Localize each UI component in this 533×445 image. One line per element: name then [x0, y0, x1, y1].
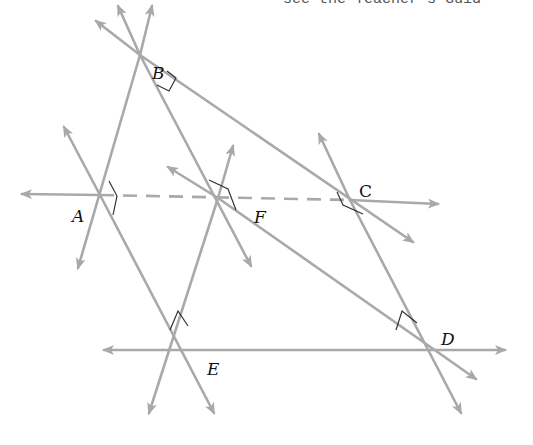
line-ba — [140, 6, 152, 55]
line-fe — [218, 146, 233, 198]
line-cd-down — [350, 200, 461, 413]
right-angle-mark-a — [109, 181, 117, 215]
line-ae — [64, 127, 100, 195]
point-label-f: F — [253, 207, 267, 227]
right-angle-mark-d — [396, 311, 417, 330]
point-label-e: E — [206, 359, 220, 379]
geometry-diagram: B A F C D E — [0, 0, 533, 445]
point-label-d: D — [440, 329, 455, 349]
point-label-c: C — [359, 181, 372, 201]
line-ac-dashed — [100, 195, 350, 200]
line-ae-down — [100, 195, 214, 413]
line-bf-down — [140, 55, 251, 266]
point-label-b: B — [151, 63, 165, 83]
point-label-a: A — [70, 206, 84, 226]
line-ac-left — [22, 194, 100, 195]
line-ba-down — [78, 55, 140, 268]
line-fe-down — [149, 198, 218, 413]
line-fd — [168, 167, 218, 198]
line-bc — [140, 55, 413, 242]
line-cd — [319, 134, 350, 200]
